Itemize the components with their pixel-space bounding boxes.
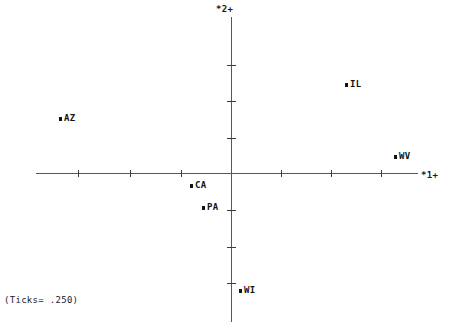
y-tick bbox=[227, 101, 236, 102]
point-marker-icon bbox=[345, 83, 348, 87]
x-axis-label: *1+ bbox=[421, 170, 438, 180]
x-axis-line bbox=[36, 173, 418, 174]
x-tick bbox=[381, 170, 382, 177]
point-marker-icon bbox=[239, 289, 242, 293]
point-marker-icon bbox=[59, 117, 62, 121]
y-tick bbox=[227, 138, 236, 139]
point-marker-icon bbox=[202, 206, 205, 210]
x-tick bbox=[281, 170, 282, 177]
y-axis-label: *2+ bbox=[216, 4, 233, 14]
x-tick bbox=[78, 170, 79, 177]
x-tick bbox=[130, 170, 131, 177]
x-tick bbox=[181, 170, 182, 177]
data-point-label: IL bbox=[350, 79, 361, 89]
data-point-label: AZ bbox=[64, 113, 75, 123]
y-tick bbox=[227, 247, 236, 248]
y-axis-line bbox=[231, 17, 232, 322]
point-marker-icon bbox=[394, 155, 397, 159]
y-tick bbox=[227, 283, 236, 284]
y-tick bbox=[227, 65, 236, 66]
x-tick bbox=[331, 170, 332, 177]
point-marker-icon bbox=[190, 184, 193, 188]
scatter-plot: *2+ *1+ AZILWVCAPAWI (Ticks= .250) bbox=[0, 0, 453, 332]
ticks-annotation: (Ticks= .250) bbox=[4, 295, 78, 306]
data-point-label: CA bbox=[195, 180, 206, 190]
y-tick bbox=[227, 210, 236, 211]
data-point-label: WV bbox=[399, 151, 410, 161]
data-point-label: WI bbox=[244, 285, 255, 295]
data-point-label: PA bbox=[207, 202, 218, 212]
